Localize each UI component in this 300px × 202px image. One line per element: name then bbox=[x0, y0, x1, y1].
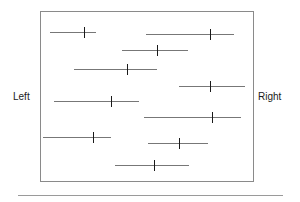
point-estimate-tick bbox=[210, 29, 211, 40]
axis-label-right: Right bbox=[258, 91, 281, 103]
interval-range-line bbox=[179, 86, 245, 87]
point-estimate-tick bbox=[154, 160, 155, 171]
axis-label-left: Left bbox=[13, 91, 30, 103]
interval-range-line bbox=[115, 165, 189, 166]
footer-divider-rule bbox=[18, 195, 283, 196]
point-estimate-tick bbox=[157, 45, 158, 56]
interval-range-line bbox=[54, 101, 139, 102]
point-estimate-tick bbox=[179, 138, 180, 149]
interval-range-line bbox=[146, 34, 234, 35]
point-estimate-tick bbox=[84, 27, 85, 38]
point-estimate-tick bbox=[210, 81, 211, 92]
interval-range-line bbox=[148, 143, 208, 144]
point-estimate-tick bbox=[111, 96, 112, 107]
interval-range-line bbox=[74, 69, 157, 70]
point-estimate-tick bbox=[93, 132, 94, 143]
plot-area-box bbox=[40, 11, 254, 182]
point-estimate-tick bbox=[127, 64, 128, 75]
interval-range-line bbox=[43, 137, 111, 138]
interval-range-line bbox=[122, 50, 188, 51]
point-estimate-tick bbox=[212, 112, 213, 123]
interval-range-line bbox=[50, 32, 96, 33]
forest-plot-figure: Left Right bbox=[0, 0, 300, 202]
interval-range-line bbox=[144, 117, 241, 118]
